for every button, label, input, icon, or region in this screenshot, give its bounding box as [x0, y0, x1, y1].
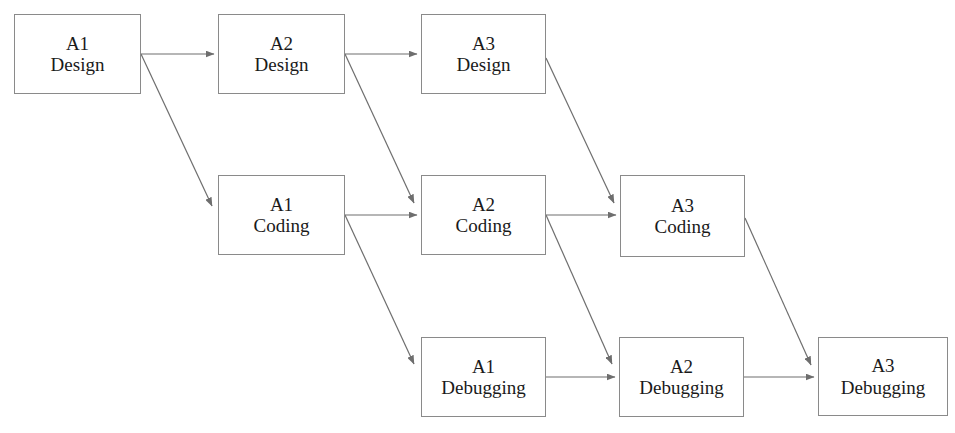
edge-a3-design-to-a3-coding [546, 58, 614, 203]
node-a2-design[interactable]: A2Design [218, 14, 345, 94]
node-label-activity: A2 [670, 356, 693, 377]
edge-a2-coding-to-a2-debugging [546, 215, 612, 364]
node-label-phase: Design [255, 54, 309, 75]
node-label-activity: A1 [270, 194, 293, 215]
node-label-phase: Coding [456, 215, 512, 236]
node-label-activity: A3 [671, 195, 694, 216]
node-label-activity: A1 [66, 33, 89, 54]
node-label-phase: Design [51, 54, 105, 75]
node-label-phase: Design [457, 54, 511, 75]
node-a2-debugging[interactable]: A2Debugging [619, 337, 744, 417]
node-a1-design[interactable]: A1Design [14, 14, 141, 94]
pipeline-diagram: A1DesignA2DesignA3DesignA1CodingA2Coding… [0, 0, 955, 433]
node-label-activity: A3 [871, 355, 894, 376]
edge-a3-coding-to-a3-debugging [745, 218, 811, 365]
edge-a1-design-to-a1-coding [141, 54, 212, 206]
node-label-phase: Debugging [441, 377, 525, 398]
node-label-phase: Debugging [841, 377, 925, 398]
node-a2-coding[interactable]: A2Coding [421, 175, 546, 255]
node-label-phase: Coding [655, 216, 711, 237]
node-label-activity: A1 [472, 356, 495, 377]
node-label-phase: Debugging [639, 377, 723, 398]
node-a1-coding[interactable]: A1Coding [218, 175, 345, 255]
node-label-activity: A3 [472, 33, 495, 54]
edge-a1-coding-to-a1-debugging [345, 215, 414, 364]
node-label-activity: A2 [472, 194, 495, 215]
node-label-activity: A2 [270, 33, 293, 54]
node-a3-coding[interactable]: A3Coding [620, 175, 745, 257]
edge-a2-design-to-a2-coding [345, 54, 414, 203]
node-a3-design[interactable]: A3Design [421, 14, 546, 94]
node-a1-debugging[interactable]: A1Debugging [421, 337, 546, 417]
node-label-phase: Coding [254, 215, 310, 236]
node-a3-debugging[interactable]: A3Debugging [818, 337, 948, 416]
